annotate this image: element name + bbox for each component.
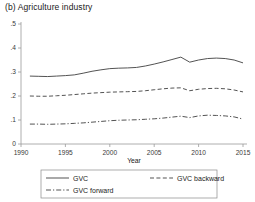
y-axis: 0.1.2.3.4.5 (11, 20, 22, 147)
series-line-gvc-backward (30, 88, 243, 96)
legend: GVCGVC backwardGVC forward (41, 170, 224, 198)
y-tick-label: .5 (11, 20, 17, 27)
x-tick-label: 1995 (58, 149, 73, 156)
agriculture-gvc-line-chart: 0.1.2.3.4.5 199019952000200520102015 Yea… (0, 0, 255, 202)
y-tick-label: .4 (11, 44, 17, 51)
legend-label-gvc: GVC (73, 175, 88, 182)
x-tick-marks: 199019952000200520102015 (14, 144, 251, 156)
y-tick-label: .2 (11, 92, 17, 99)
x-tick-label: 2015 (236, 149, 251, 156)
x-tick-label: 1990 (14, 149, 29, 156)
chart-panel: (b) Agriculture industry 0.1.2.3.4.5 199… (0, 0, 255, 202)
legend-label-gvc-backward: GVC backward (177, 175, 224, 182)
x-tick-label: 2010 (191, 149, 206, 156)
y-tick-marks: 0.1.2.3.4.5 (11, 20, 22, 147)
data-series-group (30, 57, 243, 124)
x-tick-label: 2000 (102, 149, 117, 156)
x-axis-title: Year (127, 157, 141, 164)
legend-label-gvc-forward: GVC forward (73, 187, 114, 194)
y-tick-label: 0 (12, 140, 16, 147)
x-tick-label: 2005 (147, 149, 162, 156)
series-line-gvc (30, 57, 243, 76)
y-tick-label: .3 (11, 68, 17, 75)
x-axis: 199019952000200520102015 (14, 144, 251, 156)
series-line-gvc-forward (30, 115, 243, 124)
y-tick-label: .1 (11, 116, 17, 123)
